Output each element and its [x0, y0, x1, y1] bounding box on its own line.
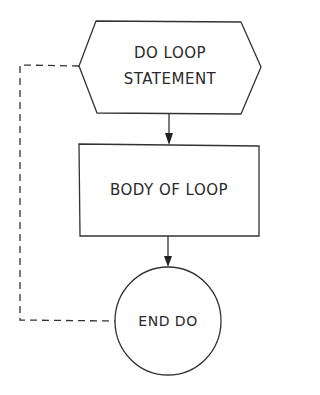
body-node-label: BODY OF LOOP — [79, 181, 259, 199]
arrowhead-1-icon — [165, 133, 173, 145]
end-node-label: END DO — [115, 313, 221, 329]
start-node-label-line2: STATEMENT — [79, 70, 261, 88]
arrowhead-2-icon — [164, 256, 172, 267]
do-loop-hexagon — [79, 21, 261, 114]
start-node-label-line1: DO LOOP — [79, 44, 261, 62]
